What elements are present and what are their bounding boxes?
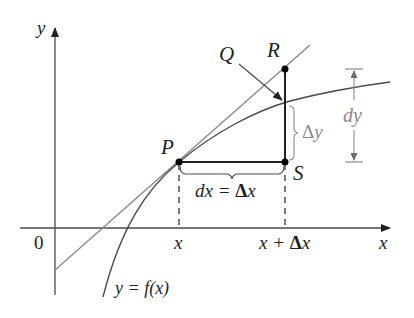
curve-label: y = f(x)	[113, 278, 169, 299]
delta-y-label: Δy	[302, 121, 323, 142]
point-Q-label: Q	[219, 42, 234, 66]
differential-diagram: y x 0 x x + Δx P Q R S dx = Δx Δy dy y =…	[0, 0, 414, 318]
point-P	[176, 159, 183, 166]
delta-y-brace	[289, 106, 298, 160]
point-S	[282, 159, 289, 166]
point-P-label: P	[160, 135, 174, 159]
point-S-label: S	[293, 161, 304, 185]
x-tick-label: x	[173, 232, 183, 253]
dy-label: dy	[343, 104, 362, 127]
dx-equation-label: dx = Δx	[195, 180, 256, 201]
point-R-label: R	[266, 38, 280, 62]
origin-label: 0	[34, 232, 44, 253]
dx-brace	[180, 166, 284, 179]
x-axis-label: x	[378, 232, 388, 253]
y-axis-label: y	[35, 17, 46, 38]
point-R	[282, 66, 289, 73]
Q-pointer-arrow	[239, 64, 282, 100]
x-plus-dx-tick-label: x + Δx	[258, 232, 311, 253]
